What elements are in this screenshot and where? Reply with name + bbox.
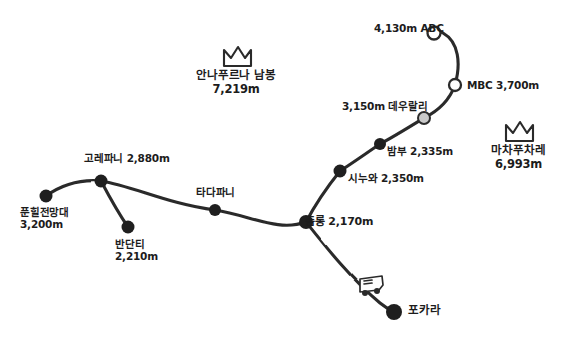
node-pokhara[interactable] xyxy=(386,304,402,320)
node-altitude: 2,335m xyxy=(410,145,453,157)
node-poon-hill[interactable] xyxy=(40,190,53,203)
node-label-deurali: 3,150m 데우랄리 xyxy=(342,100,428,112)
node-label-abc: 4,130m ABC xyxy=(374,22,444,34)
bus-icon xyxy=(360,276,383,296)
node-name: 푼힐전망대 xyxy=(20,206,69,218)
node-sinuwa[interactable] xyxy=(334,165,347,178)
node-label-mbc: MBC 3,700m xyxy=(467,79,539,91)
node-name: ABC xyxy=(420,22,443,34)
node-label-ghorepani: 고레파니 2,880m xyxy=(84,152,170,164)
node-mbc[interactable] xyxy=(449,79,461,91)
leg-tadapani-chhomrong xyxy=(215,210,306,225)
node-ghorepani[interactable] xyxy=(95,175,108,188)
node-label-pokhara: 포카라 xyxy=(408,304,440,318)
node-name: 촘롱 xyxy=(305,215,325,228)
node-altitude: 3,200m xyxy=(20,218,69,230)
node-altitude: 2,350m xyxy=(381,172,424,184)
leg-bamboo-deurali xyxy=(380,118,424,144)
node-name: 밤부 xyxy=(387,145,407,157)
node-name: MBC xyxy=(467,79,493,91)
leg-poonhill-ghorepani xyxy=(46,181,101,196)
peak-name: 마차푸차레 xyxy=(461,143,576,157)
peak-altitude: 6,993m xyxy=(461,157,576,171)
node-altitude: 2,880m xyxy=(127,152,170,164)
node-altitude: 2,210m xyxy=(115,250,158,262)
peak-name: 안나푸르나 남봉 xyxy=(176,68,296,82)
node-label-tadapani: 타다파니 xyxy=(196,186,235,198)
node-tadapani[interactable] xyxy=(209,204,221,216)
node-altitude: 3,150m xyxy=(342,100,385,112)
node-label-bhanthanti: 반단티 2,210m xyxy=(115,238,158,263)
node-name: 반단티 xyxy=(115,238,158,250)
node-bhanthanti[interactable] xyxy=(122,221,135,234)
peak-label-annapurna-south: 안나푸르나 남봉 7,219m xyxy=(176,68,296,97)
node-altitude: 2,170m xyxy=(328,215,373,228)
node-label-chhomrong: 촘롱 2,170m xyxy=(305,216,373,229)
crown-icon-annapurna-south xyxy=(224,47,251,66)
node-label-poon-hill: 푼힐전망대 3,200m xyxy=(20,206,69,231)
route-map-canvas xyxy=(0,0,586,344)
leg-chhomrong-pokhara xyxy=(306,222,394,312)
peak-label-machapuchare: 마차푸차레 6,993m xyxy=(461,143,576,172)
node-name: 포카라 xyxy=(408,303,440,317)
node-name: 데우랄리 xyxy=(388,100,427,112)
node-altitude: 3,700m xyxy=(496,79,539,91)
peak-altitude: 7,219m xyxy=(176,82,296,96)
node-name: 고레파니 xyxy=(84,152,123,164)
node-altitude: 4,130m xyxy=(374,22,417,34)
node-name: 타다파니 xyxy=(196,186,235,198)
node-name: 시누와 xyxy=(348,172,377,184)
node-deurali[interactable] xyxy=(418,112,430,124)
leg-sinuwa-bamboo xyxy=(340,144,380,171)
node-label-sinuwa: 시누와 2,350m xyxy=(348,172,424,184)
node-label-bamboo: 밤부 2,335m xyxy=(387,145,453,157)
node-bamboo[interactable] xyxy=(374,138,386,150)
crown-icon-machapuchare xyxy=(506,122,533,141)
